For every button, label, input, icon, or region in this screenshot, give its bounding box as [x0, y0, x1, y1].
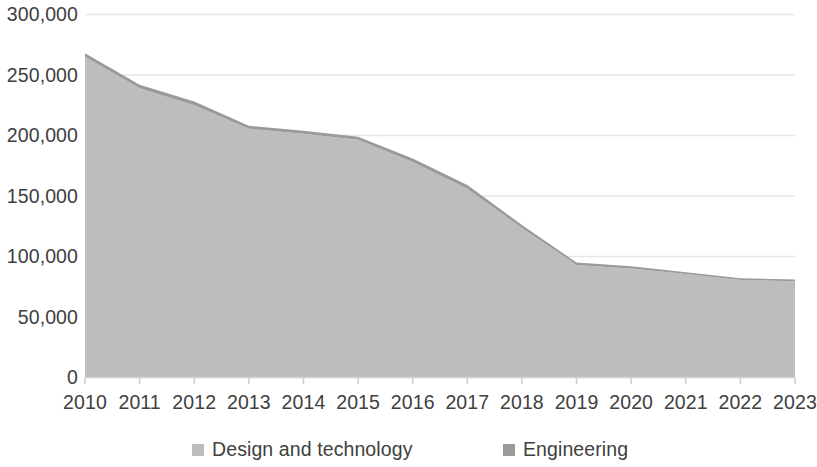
- x-tick-label: 2012: [172, 393, 216, 413]
- x-tick-label: 2018: [500, 393, 544, 413]
- x-tick-label: 2014: [282, 393, 326, 413]
- x-tick-label: 2023: [773, 393, 817, 413]
- x-tick-label: 2022: [718, 393, 762, 413]
- x-tick-label: 2016: [391, 393, 435, 413]
- x-tick-label: 2017: [445, 393, 489, 413]
- x-tick-label: 2013: [227, 393, 271, 413]
- legend-swatch-icon: [192, 444, 204, 456]
- area-series-design-and-technology: [85, 57, 795, 378]
- x-axis: 2010201120122013201420152016201720182019…: [0, 393, 810, 423]
- legend-item-engineering[interactable]: Engineering: [503, 438, 628, 462]
- x-axis-ticks: [85, 378, 795, 385]
- chart-legend: Design and technology Engineering: [0, 438, 810, 467]
- x-tick-label: 2011: [118, 393, 160, 413]
- x-tick-label: 2021: [664, 393, 708, 413]
- legend-label: Design and technology: [212, 440, 413, 460]
- x-tick-label: 2020: [609, 393, 653, 413]
- x-tick-label: 2010: [63, 393, 107, 413]
- x-tick-label: 2015: [336, 393, 380, 413]
- legend-item-design-and-technology[interactable]: Design and technology: [192, 438, 413, 462]
- legend-label: Engineering: [523, 440, 628, 460]
- x-tick-label: 2019: [555, 393, 599, 413]
- legend-swatch-icon: [503, 444, 515, 456]
